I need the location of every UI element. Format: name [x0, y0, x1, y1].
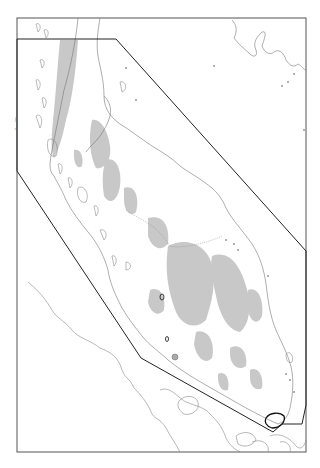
- peninsula-east-coast: [97, 18, 293, 424]
- singapore-outline: [265, 413, 284, 428]
- riau-islands: [236, 433, 306, 452]
- thai-coastline: [232, 20, 306, 70]
- highlight-marker-2: [166, 337, 169, 342]
- west-coast-islands: [36, 24, 131, 270]
- scale-label: 0 ___ km: [14, 117, 18, 130]
- map-canvas: [0, 0, 320, 468]
- highlight-marker-3: [172, 354, 178, 360]
- sumatra-coastline-2: [160, 389, 240, 452]
- forest-cover: [52, 40, 263, 390]
- state-border: [126, 210, 222, 247]
